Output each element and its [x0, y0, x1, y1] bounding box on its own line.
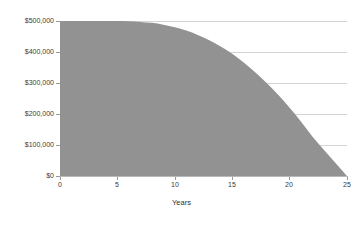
x-axis-line: [60, 176, 348, 177]
y-tick-label-400000: $400,000: [25, 48, 54, 56]
x-axis-title: Years: [0, 198, 363, 207]
x-tick-label-20: 20: [279, 181, 299, 189]
x-tick-mark: [175, 177, 176, 180]
x-tick-mark: [60, 177, 61, 180]
area-chart: $500,000 $400,000 $300,000 $200,000 $100…: [0, 0, 363, 225]
y-tick-mark: [56, 52, 60, 53]
plot-area: [60, 21, 347, 176]
x-tick-label-0: 0: [50, 181, 70, 189]
x-tick-label-5: 5: [107, 181, 127, 189]
y-tick-label-0: $0: [46, 172, 54, 180]
x-tick-mark: [347, 177, 348, 180]
area-fill-path: [60, 21, 347, 176]
x-tick-mark: [117, 177, 118, 180]
y-tick-mark: [56, 145, 60, 146]
y-tick-label-500000: $500,000: [25, 17, 54, 25]
y-tick-label-100000: $100,000: [25, 141, 54, 149]
y-tick-mark: [56, 114, 60, 115]
y-tick-mark: [56, 21, 60, 22]
x-tick-label-25: 25: [337, 181, 357, 189]
x-tick-label-15: 15: [222, 181, 242, 189]
x-tick-label-10: 10: [165, 181, 185, 189]
x-tick-mark: [289, 177, 290, 180]
y-tick-mark: [56, 83, 60, 84]
y-tick-label-300000: $300,000: [25, 79, 54, 87]
series-balance-area: [60, 21, 347, 176]
x-tick-mark: [232, 177, 233, 180]
y-tick-label-200000: $200,000: [25, 110, 54, 118]
